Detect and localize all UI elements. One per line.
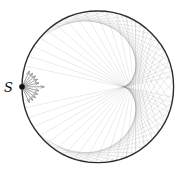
figure-canvas: S (0, 0, 182, 174)
source-ray-arrows (22, 71, 44, 102)
caustic-diagram: S (0, 0, 182, 174)
source-label: S (4, 80, 13, 95)
source-point (19, 84, 25, 90)
